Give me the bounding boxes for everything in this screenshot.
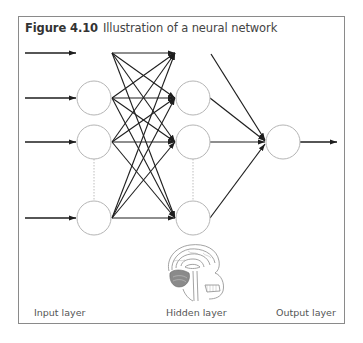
hidden-layer-label: Hidden layer: [166, 307, 227, 318]
input-node: [77, 125, 111, 159]
output-node: [266, 125, 300, 159]
hidden-node: [176, 201, 210, 235]
hidden-layer-nodes: [176, 81, 210, 235]
output-layer-label: Output layer: [276, 307, 336, 318]
hidden-node: [176, 81, 210, 115]
input-hidden-connections: [112, 53, 175, 218]
input-node: [77, 81, 111, 115]
input-layer-label: Input layer: [34, 307, 85, 318]
hidden-node: [176, 125, 210, 159]
input-layer-nodes: [77, 81, 111, 235]
input-arrows: [25, 53, 76, 218]
hidden-output-connections: [210, 54, 265, 218]
brain-illustration-icon: [163, 241, 229, 303]
input-node: [77, 201, 111, 235]
